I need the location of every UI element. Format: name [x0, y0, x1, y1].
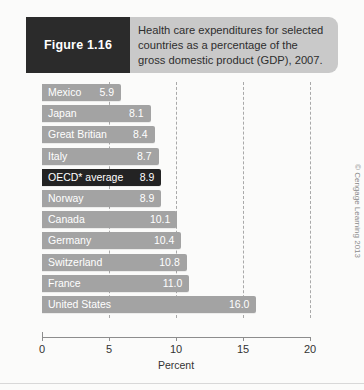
bar: OECD* average8.9 [42, 169, 161, 186]
bar: Japan8.1 [42, 105, 151, 122]
caption-line-2: countries as a percentage of the [138, 38, 334, 53]
bar-row: Norway8.9 [42, 190, 310, 207]
bar-category-label: Mexico [48, 84, 81, 101]
bar-value-label: 16.0 [229, 296, 249, 313]
x-axis-tick [176, 337, 177, 341]
bar-category-label: OECD* average [48, 169, 123, 186]
bar-category-label: Great Britian [48, 126, 107, 143]
x-axis-title: Percent [158, 359, 194, 371]
bar-category-label: Germany [48, 232, 91, 249]
bar-category-label: United States [48, 296, 111, 313]
bar-row: Italy8.7 [42, 148, 310, 165]
x-axis-tick [42, 337, 43, 341]
x-axis-tick [310, 337, 311, 341]
bar: France11.0 [42, 275, 189, 292]
x-axis-tick-label: 20 [304, 343, 316, 355]
bar-chart: Mexico5.9Japan8.1Great Britian8.4Italy8.… [0, 82, 364, 347]
bar: Switzerland10.8 [42, 254, 187, 271]
bar-value-label: 10.4 [154, 232, 174, 249]
bar-category-label: France [48, 275, 81, 292]
bar-category-label: Japan [48, 105, 77, 122]
plot-area: Mexico5.9Japan8.1Great Britian8.4Italy8.… [42, 82, 310, 344]
bar-row: Canada10.1 [42, 211, 310, 228]
x-axis-tick-label: 15 [237, 343, 249, 355]
figure-caption: Health care expenditures for selected co… [138, 23, 334, 69]
figure-root: Figure 1.16 Health care expenditures for… [0, 0, 364, 390]
bar-value-label: 11.0 [163, 275, 183, 292]
bar-row: France11.0 [42, 275, 310, 292]
bar-category-label: Italy [48, 148, 67, 165]
bar: Mexico5.9 [42, 84, 121, 101]
figure-header: Figure 1.16 Health care expenditures for… [26, 17, 338, 73]
x-axis-tick-label: 10 [170, 343, 182, 355]
x-axis-tick [109, 337, 110, 341]
bar-value-label: 8.1 [129, 105, 144, 122]
copyright-credit: © Cengage Learning 2013 [353, 164, 362, 258]
bar-value-label: 8.4 [133, 126, 148, 143]
bar: Norway8.9 [42, 190, 161, 207]
bar-row: OECD* average8.9 [42, 169, 310, 186]
figure-number-badge: Figure 1.16 [26, 17, 130, 73]
bar: Great Britian8.4 [42, 126, 155, 143]
figure-number-label: Figure 1.16 [44, 38, 112, 52]
bar-value-label: 10.8 [159, 254, 179, 271]
bar-value-label: 8.9 [140, 190, 155, 207]
bar-row: Great Britian8.4 [42, 126, 310, 143]
bar: Italy8.7 [42, 148, 159, 165]
bar-value-label: 5.9 [99, 84, 114, 101]
gridline [310, 82, 311, 318]
bar-category-label: Canada [48, 211, 85, 228]
bar-row: Switzerland10.8 [42, 254, 310, 271]
bar-category-label: Norway [48, 190, 84, 207]
bar: Canada10.1 [42, 211, 177, 228]
x-axis-tick [243, 337, 244, 341]
bar-row: Japan8.1 [42, 105, 310, 122]
caption-line-3: gross domestic product (GDP), 2007. [138, 53, 334, 68]
bar-value-label: 10.1 [150, 211, 170, 228]
bar-category-label: Switzerland [48, 254, 102, 271]
x-axis-tick-label: 0 [39, 343, 45, 355]
bar-value-label: 8.7 [137, 148, 152, 165]
bar-row: Germany10.4 [42, 232, 310, 249]
bar: United States16.0 [42, 296, 256, 313]
bar-row: Mexico5.9 [42, 84, 310, 101]
bar-value-label: 8.9 [140, 169, 155, 186]
bottom-divider [0, 383, 364, 384]
bar: Germany10.4 [42, 232, 181, 249]
bar-row: United States16.0 [42, 296, 310, 313]
caption-line-1: Health care expenditures for selected [138, 23, 334, 38]
x-axis-tick-label: 5 [106, 343, 112, 355]
